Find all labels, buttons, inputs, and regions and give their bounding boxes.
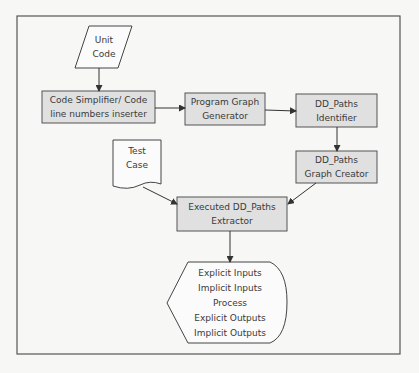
- test-case-line: Case: [126, 158, 148, 172]
- unit-code-label: Unit Code: [80, 26, 128, 68]
- output-display-label: Explicit Inputs Implicit Inputs Process …: [175, 264, 285, 342]
- edge-graph-creator-to-extractor: [288, 183, 316, 204]
- dd-paths-identifier-line: Identifier: [316, 111, 357, 125]
- executed-extractor-line: Executed DD_Paths: [188, 200, 275, 214]
- code-simplifier-line: line numbers inserter: [50, 107, 147, 121]
- output-line-implicit-inputs: Implicit Inputs: [198, 281, 262, 296]
- executed-extractor-line: Extractor: [211, 214, 252, 228]
- dd-paths-graph-creator-line: Graph Creator: [304, 167, 368, 181]
- dd-paths-identifier-label: DD_Paths Identifier: [296, 94, 377, 127]
- unit-code-line: Unit: [95, 33, 113, 47]
- program-graph-generator-label: Program Graph Generator: [185, 93, 265, 125]
- output-line-explicit-inputs: Explicit Inputs: [198, 266, 262, 281]
- edge-generator-to-identifier: [265, 110, 296, 111]
- dd-paths-graph-creator-label: DD_Paths Graph Creator: [296, 151, 377, 183]
- output-line-explicit-outputs: Explicit Outputs: [194, 311, 266, 326]
- code-simplifier-label: Code Simplifier/ Code line numbers inser…: [42, 91, 155, 123]
- program-graph-generator-line: Program Graph: [191, 95, 259, 109]
- executed-dd-paths-extractor-label: Executed DD_Paths Extractor: [177, 197, 287, 231]
- test-case-label: Test Case: [113, 141, 161, 175]
- unit-code-line: Code: [92, 47, 115, 61]
- output-line-implicit-outputs: Implicit Outputs: [194, 326, 266, 341]
- edge-test-case-to-extractor: [143, 187, 177, 204]
- dd-paths-identifier-line: DD_Paths: [315, 97, 358, 111]
- program-graph-generator-line: Generator: [202, 109, 248, 123]
- output-line-process: Process: [213, 296, 247, 311]
- test-case-line: Test: [128, 144, 146, 158]
- code-simplifier-line: Code Simplifier/ Code: [50, 93, 147, 107]
- dd-paths-graph-creator-line: DD_Paths: [315, 153, 358, 167]
